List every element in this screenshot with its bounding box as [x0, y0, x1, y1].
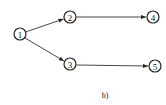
edge-3-5 — [77, 65, 149, 66]
node-1: 1 — [14, 28, 26, 40]
figure-caption: b) — [102, 91, 109, 100]
node-2-label: 2 — [68, 13, 73, 23]
node-5-label: 5 — [153, 62, 158, 72]
edge-1-3 — [25, 38, 64, 61]
node-3-label: 3 — [68, 60, 73, 70]
node-3: 3 — [64, 58, 76, 70]
node-4-label: 4 — [151, 13, 156, 23]
node-4: 4 — [147, 11, 159, 23]
node-5: 5 — [149, 60, 161, 72]
node-2: 2 — [64, 11, 76, 23]
edge-1-2 — [26, 19, 64, 32]
node-1-label: 1 — [18, 30, 23, 40]
graph-diagram: 1 2 3 4 5 b) — [0, 0, 166, 105]
